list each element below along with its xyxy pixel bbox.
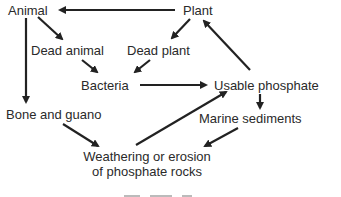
arrow-animal-to-dead-animal bbox=[38, 17, 62, 39]
arrow-bone-and-guano-to-weathering bbox=[63, 124, 98, 146]
arrow-dead-animal-to-bacteria bbox=[82, 60, 97, 72]
node-dead-plant: Dead plant bbox=[127, 43, 190, 58]
arrow-dead-plant-to-bacteria bbox=[135, 60, 150, 72]
node-bacteria: Bacteria bbox=[81, 78, 129, 93]
node-weathering: Weathering or erosion of phosphate rocks bbox=[72, 149, 222, 179]
node-weathering-line2: of phosphate rocks bbox=[72, 164, 222, 179]
arrow-plant-to-dead-plant bbox=[172, 19, 190, 38]
node-dead-animal: Dead animal bbox=[31, 43, 104, 58]
node-plant: Plant bbox=[183, 3, 213, 18]
arrow-usable-phosphate-to-plant bbox=[204, 21, 250, 70]
clipped-caption bbox=[120, 192, 230, 197]
arrow-marine-sediments-to-weathering bbox=[205, 128, 238, 146]
node-usable-phosphate: Usable phosphate bbox=[214, 78, 319, 93]
node-marine-sediments: Marine sediments bbox=[199, 111, 302, 126]
node-animal: Animal bbox=[8, 3, 48, 18]
node-bone-and-guano: Bone and guano bbox=[6, 107, 101, 122]
node-weathering-line1: Weathering or erosion bbox=[72, 149, 222, 164]
